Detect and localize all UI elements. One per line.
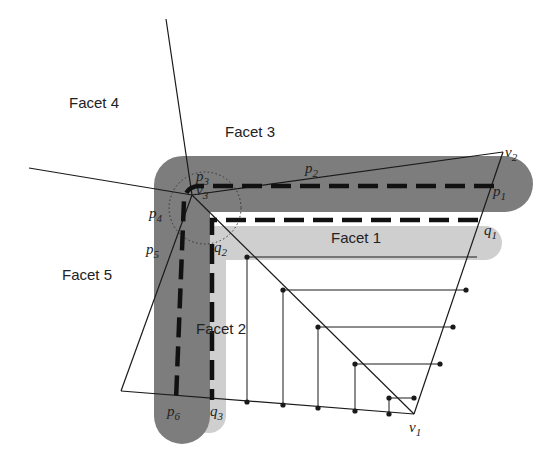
facet-boundaries [29,19,503,414]
facet-4-label: Facet 4 [69,94,119,111]
facet-3-label: Facet 3 [225,123,275,140]
facet-diagram: Facet 1 Facet 2 Facet 3 Facet 4 Facet 5 … [0,0,544,458]
grid-nodes [244,254,468,416]
staircase-grid [247,257,477,414]
facet-1-label: Facet 1 [331,229,381,246]
v1-label: v1 [409,419,421,438]
facet-5-label: Facet 5 [62,266,112,283]
facet-2-label: Facet 2 [196,320,246,337]
